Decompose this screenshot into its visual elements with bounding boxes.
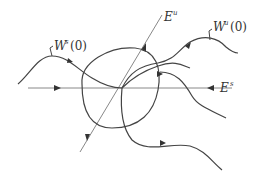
stable-eigenspace-axis [28,85,232,91]
label-unstable-eigenspace: E u [163,9,178,24]
stable-manifold-curve [18,56,122,88]
svg-text:s: s [230,80,234,88]
svg-text:u: u [173,9,178,17]
svg-text:E: E [219,81,229,95]
svg-text:(0): (0) [230,20,247,34]
arrow-left-icon [207,85,214,91]
svg-text:u: u [224,19,229,27]
arrow-right-icon [54,85,61,91]
label-stable-eigenspace: E s [219,80,234,95]
svg-text:E: E [163,10,173,24]
svg-text:s: s [65,38,69,46]
svg-text:(0): (0) [70,39,87,53]
manifold-diagram: W s (0) W u (0) E u E s [0,0,258,177]
label-stable-manifold: W s (0) [50,38,87,56]
inner-curves [121,63,226,170]
unstable-eigenspace-axis [80,15,162,152]
label-unstable-manifold: W u (0) [209,19,247,40]
